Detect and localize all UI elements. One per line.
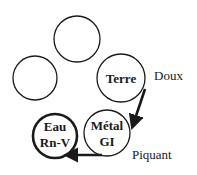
node-metal-label-line2: GI — [99, 134, 114, 149]
node-terre-label: Terre — [106, 71, 137, 86]
node-eau-label-line2: Rn-V — [40, 135, 71, 150]
annotation-doux: Doux — [154, 68, 183, 83]
node-eau-label-line1: Eau — [44, 119, 66, 134]
annotation-piquant: Piquant — [132, 147, 172, 162]
node-top-circle — [54, 16, 100, 62]
node-left-circle — [13, 56, 57, 100]
node-metal-circle — [84, 110, 130, 156]
node-metal-label-line1: Métal — [91, 118, 124, 133]
five-elements-diagram: Terre Métal GI Eau Rn-V Doux Piquant — [0, 0, 197, 175]
